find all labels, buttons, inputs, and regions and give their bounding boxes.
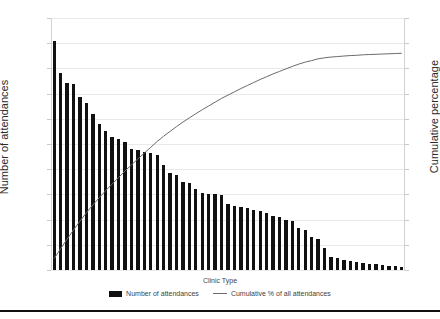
cumulative-line-series (51, 18, 405, 270)
y-axis-left-tick (47, 270, 51, 271)
y-axis-right-tick (405, 270, 409, 271)
legend-label-line: Cumulative % of all attendances (231, 290, 331, 297)
y-axis-left-title-text: Number of attendances (0, 42, 10, 232)
y-axis-right-tick (405, 68, 409, 69)
legend-label-bars: Number of attendances (126, 290, 199, 297)
cumulative-line-path (54, 53, 402, 258)
pareto-chart-figure: Number of attendances Cumulative percent… (0, 0, 440, 319)
x-axis-title: Clinic Type (0, 277, 440, 284)
line-swatch-icon (213, 293, 227, 294)
legend-item-bars: Number of attendances (109, 290, 199, 297)
y-axis-right-tick (405, 194, 409, 195)
legend-item-line: Cumulative % of all attendances (213, 290, 331, 297)
y-axis-left-title: Number of attendances (0, 0, 10, 42)
gridline (51, 270, 405, 271)
bottom-divider (0, 310, 440, 312)
bar-swatch-icon (109, 291, 122, 297)
y-axis-right-tick (405, 94, 409, 95)
chart-legend: Number of attendances Cumulative % of al… (0, 290, 440, 297)
y-axis-right-tick (405, 245, 409, 246)
y-axis-right-tick (405, 144, 409, 145)
y-axis-right-tick (405, 220, 409, 221)
y-axis-right-tick (405, 169, 409, 170)
y-axis-right-tick (405, 43, 409, 44)
y-axis-right-tick (405, 18, 409, 19)
plot-area: 2,0001,8001,6001,4001,2001,0008006004002… (51, 18, 405, 270)
y-axis-right-tick (405, 119, 409, 120)
y-axis-right-title: Cumulative percentage (428, 60, 440, 173)
